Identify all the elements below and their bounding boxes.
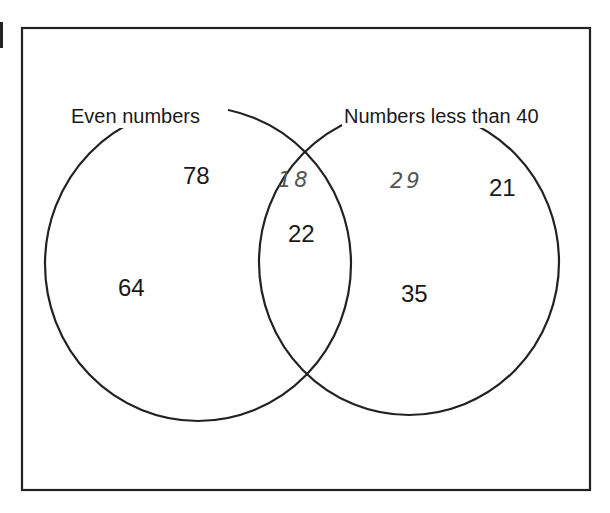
set-label-less-than-40: Numbers less than 40 [344,106,539,126]
value-22: 22 [288,222,315,246]
less-than-40-circle [259,109,559,415]
value-21: 21 [489,176,516,200]
handwritten-18: 18 [278,170,311,191]
value-64: 64 [118,276,145,300]
universal-set-box [22,28,590,490]
value-35: 35 [401,282,428,306]
set-label-even: Even numbers [71,106,200,126]
handwritten-29: 29 [390,171,423,192]
venn-diagram [0,0,610,513]
even-numbers-circle [45,107,351,421]
value-78: 78 [183,164,210,188]
